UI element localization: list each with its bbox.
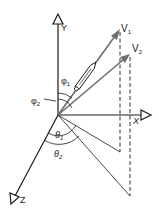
x-axis-arrow-icon: [141, 110, 151, 120]
z-axis-arrow-icon: [10, 193, 19, 204]
theta2-label: θ2: [54, 149, 63, 160]
v2-label: V2: [132, 43, 143, 55]
z-axis: [10, 115, 58, 204]
phi2-leader: [44, 99, 56, 101]
y-axis-label: Y: [61, 23, 67, 33]
z-axis-label: Z: [20, 195, 26, 205]
vector-angle-diagram: Y X Z V1 V2 φ1 φ2 θ1 θ2: [0, 0, 159, 213]
theta1-label: θ1: [55, 130, 63, 141]
phi1-label: φ1: [61, 76, 71, 87]
diagram-canvas: Y X Z V1 V2 φ1 φ2 θ1 θ2: [0, 0, 159, 213]
phi2-label: φ2: [31, 96, 41, 107]
v2-projection-line: [58, 115, 130, 196]
x-axis-label: X: [132, 116, 140, 126]
rocket-icon: [73, 61, 98, 92]
v1-label: V1: [121, 23, 132, 35]
